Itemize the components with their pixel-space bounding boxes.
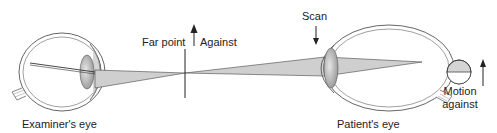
against-arrow-icon [191, 24, 198, 46]
patient-eye [321, 25, 454, 111]
motion-label-line1: Motion [440, 86, 480, 97]
diagram-canvas [0, 0, 497, 133]
scan-arrow-icon [313, 26, 319, 45]
motion-arrow-icon [480, 59, 486, 86]
light-beam [30, 57, 325, 88]
scan-label: Scan [302, 11, 327, 22]
retinoscopy-diagram: Examiner's eye Patient's eye Far point A… [0, 0, 497, 133]
against-label: Against [200, 37, 237, 48]
examiner-eye-label: Examiner's eye [22, 119, 97, 130]
far-point-label: Far point [142, 37, 185, 48]
reflex-circle-icon [447, 60, 471, 84]
examiner-eye [12, 33, 105, 111]
patient-eye-label: Patient's eye [337, 119, 400, 130]
motion-label-line2: against [440, 99, 480, 110]
